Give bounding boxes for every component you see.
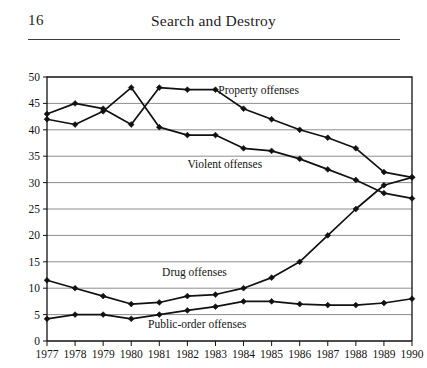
series-marker <box>325 302 331 308</box>
series-marker <box>241 285 247 291</box>
series-marker <box>44 116 50 122</box>
y-tick-label: 40 <box>29 124 41 136</box>
series-marker <box>100 293 106 299</box>
series-marker <box>297 127 303 133</box>
series-marker <box>213 304 219 310</box>
series-marker <box>269 148 275 154</box>
series-marker <box>184 87 190 93</box>
x-tick-label: 1984 <box>232 348 255 360</box>
x-axis-ticks <box>47 341 412 346</box>
chart-canvas: 05101520253035404550 1977197819791980198… <box>0 46 427 368</box>
x-tick-label: 1979 <box>92 348 115 360</box>
x-axis-tick-labels: 1977197819791980198119821983198419851986… <box>36 348 424 360</box>
x-tick-label: 1986 <box>288 348 311 360</box>
y-tick-label: 5 <box>34 309 40 321</box>
series-marker <box>409 296 415 302</box>
series-marker <box>325 167 331 173</box>
x-tick-label: 1989 <box>372 348 395 360</box>
series-marker <box>213 132 219 138</box>
series-marker <box>184 293 190 299</box>
y-tick-label: 25 <box>29 203 41 215</box>
series-label: Violent offenses <box>187 158 262 170</box>
series-marker <box>241 299 247 305</box>
y-tick-label: 30 <box>29 177 41 189</box>
x-tick-label: 1978 <box>64 348 87 360</box>
line-chart: 05101520253035404550 1977197819791980198… <box>0 46 427 368</box>
series-marker <box>241 145 247 151</box>
page-header: 16 Search and Destroy <box>0 0 427 46</box>
y-tick-label: 20 <box>29 229 41 241</box>
y-tick-label: 0 <box>34 335 40 347</box>
data-series <box>44 85 415 322</box>
series-marker <box>269 116 275 122</box>
x-tick-label: 1983 <box>204 348 227 360</box>
series-marker <box>353 177 359 183</box>
series-marker <box>44 277 50 283</box>
series-label: Property offenses <box>218 84 299 97</box>
series-marker <box>297 156 303 162</box>
series-marker <box>269 299 275 305</box>
series-marker <box>72 312 78 318</box>
x-tick-label: 1988 <box>344 348 367 360</box>
series-marker <box>72 122 78 128</box>
x-tick-label: 1987 <box>316 348 339 360</box>
series-marker <box>409 174 415 180</box>
running-head-title: Search and Destroy <box>0 12 427 30</box>
x-tick-label: 1982 <box>176 348 199 360</box>
series-marker <box>325 135 331 141</box>
series-marker <box>156 300 162 306</box>
header-divider-rule <box>28 39 400 40</box>
y-axis-tick-labels: 05101520253035404550 <box>29 71 41 347</box>
series-marker <box>184 307 190 313</box>
x-tick-label: 1977 <box>36 348 59 360</box>
series-marker <box>100 312 106 318</box>
series-marker <box>213 292 219 298</box>
series-marker <box>44 316 50 322</box>
y-tick-label: 35 <box>29 150 41 162</box>
series-marker <box>381 300 387 306</box>
y-tick-label: 50 <box>29 71 41 83</box>
series-marker <box>128 316 134 322</box>
y-tick-label: 10 <box>29 282 41 294</box>
series-marker <box>381 190 387 196</box>
y-tick-label: 15 <box>29 256 41 268</box>
y-tick-label: 45 <box>29 97 41 109</box>
series-line <box>47 177 412 304</box>
series-marker <box>184 132 190 138</box>
series-marker <box>409 196 415 202</box>
series-marker <box>72 285 78 291</box>
x-tick-label: 1990 <box>401 348 424 360</box>
series-label: Drug offenses <box>162 266 227 279</box>
series-marker <box>353 302 359 308</box>
series-label: Public-order offenses <box>148 318 247 330</box>
x-tick-label: 1980 <box>120 348 143 360</box>
series-marker <box>297 301 303 307</box>
series-marker <box>156 312 162 318</box>
x-tick-label: 1985 <box>260 348 283 360</box>
series-marker <box>128 301 134 307</box>
x-tick-label: 1981 <box>148 348 171 360</box>
series-marker <box>72 101 78 107</box>
